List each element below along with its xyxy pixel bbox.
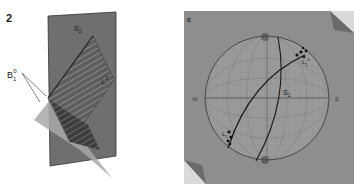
block-diagram: S2 B10 L0 [7, 12, 116, 178]
west-label: W [192, 96, 198, 102]
figure-canvas: S2 B10 L0 c [0, 0, 356, 195]
stereonet-panel: c S2 L10 L10 W E [184, 11, 354, 184]
east-label: E [335, 96, 339, 102]
panel-label-c: c [187, 16, 191, 23]
bedding-label: B10 [7, 68, 17, 82]
